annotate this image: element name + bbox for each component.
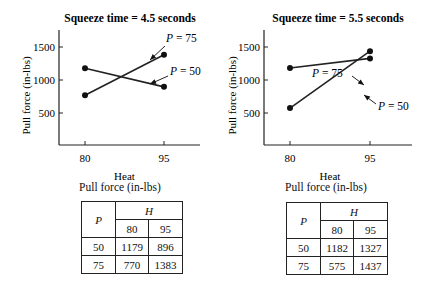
- data-point: [287, 105, 293, 111]
- table-cell: 1437: [354, 257, 388, 275]
- data-point: [287, 65, 293, 71]
- table-caption-right: Pull force (in-lbs): [266, 181, 386, 193]
- table-cell: 1383: [149, 256, 183, 274]
- col-header-h: H: [321, 203, 388, 221]
- table-caption-left: Pull force (in-lbs): [60, 181, 180, 193]
- col-label: 80: [116, 220, 149, 238]
- chart-title: Squeeze time = 5.5 seconds: [272, 12, 404, 25]
- series-line: [85, 68, 164, 87]
- row-label: 75: [287, 257, 321, 275]
- series-annotation: P = 50: [169, 65, 201, 77]
- table-row: 50 1182 1327: [287, 239, 388, 257]
- row-label: 50: [82, 238, 116, 256]
- series-annotation: P = 75: [165, 32, 197, 44]
- data-point: [367, 55, 373, 61]
- x-tick-label: 95: [365, 152, 377, 164]
- col-label: 95: [149, 220, 183, 238]
- data-point: [161, 52, 167, 58]
- y-axis-label: Pull force (in-lbs): [226, 56, 239, 135]
- table-cell: 575: [321, 257, 354, 275]
- y-tick-label: 500: [39, 107, 56, 119]
- series-line: [85, 55, 164, 95]
- arrow-head: [364, 95, 370, 101]
- table-row: 50 1179 896: [82, 238, 183, 256]
- chart-title: Squeeze time = 4.5 seconds: [64, 12, 196, 25]
- table-cell: 896: [149, 238, 183, 256]
- x-tick-label: 80: [285, 152, 297, 164]
- arrow-head: [358, 79, 364, 85]
- data-point: [82, 92, 88, 98]
- data-point: [82, 65, 88, 71]
- row-label: 75: [82, 256, 116, 274]
- table-row: 75 770 1383: [82, 256, 183, 274]
- row-header-p: P: [287, 203, 321, 239]
- table-cell: 1182: [321, 239, 354, 257]
- series-line: [290, 51, 370, 108]
- col-header-h: H: [116, 202, 183, 220]
- series-annotation: P = 50: [377, 100, 409, 112]
- y-tick-label: 1500: [238, 41, 261, 53]
- y-tick-label: 500: [244, 107, 261, 119]
- data-table-left: P H 80 95 50 1179 896 75 770 1383: [81, 201, 183, 274]
- y-tick-label: 1500: [33, 41, 56, 53]
- row-header-p: P: [82, 202, 116, 238]
- table-cell: 1179: [116, 238, 149, 256]
- y-axis-label: Pull force (in-lbs): [20, 56, 33, 135]
- x-tick-label: 95: [159, 152, 171, 164]
- data-point: [161, 84, 167, 90]
- table-row: 75 575 1437: [287, 257, 388, 275]
- row-label: 50: [287, 239, 321, 257]
- series-annotation: P = 75: [311, 67, 343, 79]
- y-tick-label: 1000: [238, 74, 261, 86]
- data-table-right: P H 80 95 50 1182 1327 75 575 1437: [286, 202, 388, 275]
- data-point: [367, 48, 373, 54]
- col-label: 95: [354, 221, 388, 239]
- table-cell: 770: [116, 256, 149, 274]
- table-cell: 1327: [354, 239, 388, 257]
- x-tick-label: 80: [80, 152, 92, 164]
- y-tick-label: 1000: [33, 74, 56, 86]
- col-label: 80: [321, 221, 354, 239]
